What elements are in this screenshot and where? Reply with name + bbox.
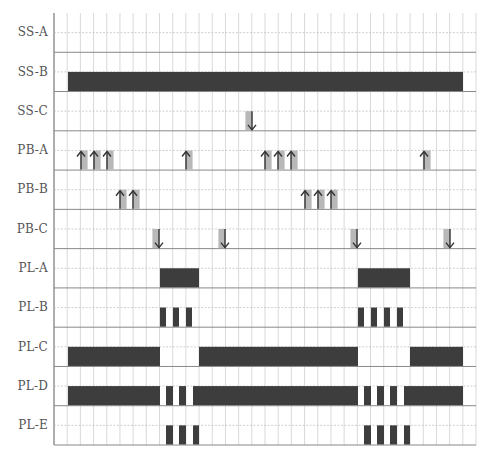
signal-high-bar [173,308,179,327]
signal-label-pb-b: PB-B [0,182,48,196]
signal-label-pl-a: PL-A [0,261,48,275]
signal-high-bar [68,72,463,91]
signal-label-pl-c: PL-C [0,340,48,354]
signal-high-bar [377,425,384,444]
arrow-shade [152,229,159,248]
signal-high-bar [390,386,397,405]
signal-high-bar [160,308,166,327]
signal-high-bar [179,425,186,444]
signal-label-pb-c: PB-C [0,222,48,236]
signal-high-bar [166,386,173,405]
signal-high-bar [384,308,390,327]
signal-high-bar [160,268,199,287]
timing-diagram: SS-A SS-B SS-C PB-A PB-B PB-C PL-A PL-B … [0,0,491,456]
arrow-shade [245,111,252,130]
signal-high-bar [179,386,186,405]
signal-label-pb-a: PB-A [0,143,48,157]
signal-high-bar [377,386,384,405]
arrow-shade [350,229,357,248]
signal-label-pl-b: PL-B [0,300,48,314]
signal-label-ss-a: SS-A [0,25,48,39]
signal-high-bar [358,268,410,287]
signal-high-bar [364,425,371,444]
signal-high-bar [404,425,410,444]
signal-label-pl-d: PL-D [0,379,48,393]
signal-high-bar [390,425,397,444]
signal-high-bar [68,347,160,366]
signal-high-bar [68,386,160,405]
timing-grid [0,0,491,456]
signal-label-ss-b: SS-B [0,65,48,79]
arrow-shade [218,229,225,248]
signal-label-ss-c: SS-C [0,104,48,118]
signal-high-bar [410,347,463,366]
signal-high-bar [397,308,403,327]
signal-high-bar [186,308,192,327]
signal-high-bar [193,425,199,444]
signal-high-bar [358,308,364,327]
signal-high-bar [166,425,173,444]
signal-high-bar [364,386,371,405]
arrow-shade [443,229,450,248]
signal-label-pl-e: PL-E [0,418,48,432]
signal-high-bar [404,386,463,405]
signal-high-bar [371,308,377,327]
signal-high-bar [193,386,358,405]
signal-high-bar [199,347,358,366]
